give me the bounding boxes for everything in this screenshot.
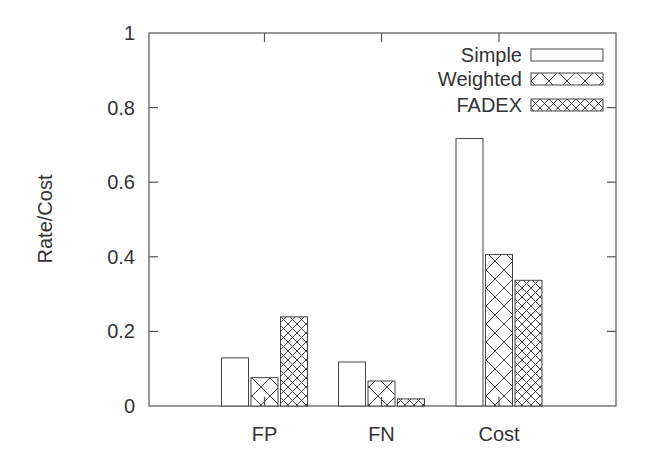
bars-group: [222, 139, 543, 406]
legend-swatch: [531, 73, 603, 85]
y-tick-label: 0.4: [107, 246, 135, 268]
bar-weighted-cost: [486, 255, 513, 406]
legend-swatch: [531, 49, 603, 61]
plot-border: [149, 33, 616, 406]
bar-fadex-fn: [398, 399, 425, 406]
legend-label: Weighted: [438, 68, 522, 90]
bar-simple-fp: [222, 358, 249, 406]
bar-simple-fn: [339, 362, 366, 406]
plot-frame: [149, 33, 616, 406]
legend: SimpleWeightedFADEX: [438, 44, 603, 116]
bar-fadex-fp: [281, 317, 308, 406]
y-tick-label: 0: [124, 395, 135, 417]
x-tick-label: FP: [252, 423, 278, 445]
x-tick-label: FN: [368, 423, 395, 445]
legend-label: FADEX: [456, 94, 522, 116]
bar-simple-cost: [456, 139, 483, 406]
y-tick-label: 0.8: [107, 97, 135, 119]
x-tick-label: Cost: [478, 423, 520, 445]
y-axis-label: Rate/Cost: [34, 174, 56, 263]
legend-label: Simple: [461, 44, 522, 66]
bar-chart: 00.20.40.60.81 FPFNCost SimpleWeightedFA…: [0, 0, 650, 465]
legend-swatch: [531, 99, 603, 111]
y-tick-label: 0.2: [107, 320, 135, 342]
bar-fadex-cost: [515, 280, 542, 406]
y-tick-label: 0.6: [107, 171, 135, 193]
y-tick-label: 1: [124, 22, 135, 44]
